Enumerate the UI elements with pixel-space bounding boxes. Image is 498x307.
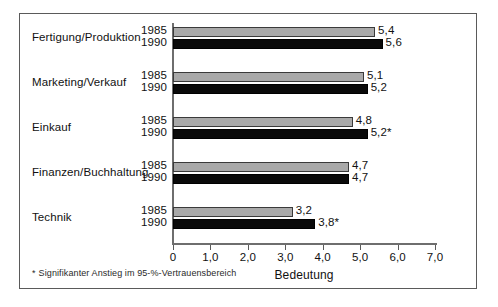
chart-frame: Bedeutung 01,02,03,04,05,06,07,0Fertigun… xyxy=(19,13,477,289)
bar xyxy=(173,162,349,172)
bar-value-label: 5,4 xyxy=(378,24,394,36)
year-label: 1990 xyxy=(133,81,167,93)
bar xyxy=(173,39,383,49)
year-label: 1985 xyxy=(133,69,167,81)
bar xyxy=(173,72,364,82)
bar-value-label: 3,2 xyxy=(296,204,312,216)
x-axis-tick xyxy=(285,245,286,250)
x-axis-tick xyxy=(173,245,174,250)
category-label: Fertigung/Produktion xyxy=(32,31,141,43)
year-label: 1990 xyxy=(133,171,167,183)
x-axis-tick xyxy=(210,245,211,250)
bar-value-label: 5,2* xyxy=(371,126,392,138)
bar-value-label: 5,1 xyxy=(367,69,383,81)
year-label: 1985 xyxy=(133,159,167,171)
x-axis-tick xyxy=(398,245,399,250)
x-axis-tick-label: 7,0 xyxy=(420,251,450,263)
year-label: 1985 xyxy=(133,204,167,216)
x-axis-tick xyxy=(248,245,249,250)
category-label: Technik xyxy=(32,211,72,223)
category-label: Marketing/Verkauf xyxy=(32,76,126,88)
bar xyxy=(173,117,353,127)
year-label: 1990 xyxy=(133,36,167,48)
x-axis-tick-label: 2,0 xyxy=(233,251,263,263)
bar-value-label: 3,8* xyxy=(318,216,339,228)
year-label: 1990 xyxy=(133,126,167,138)
bar-value-label: 5,2 xyxy=(371,81,387,93)
x-axis-tick xyxy=(323,245,324,250)
x-axis-tick xyxy=(435,245,436,250)
plot-area: Bedeutung 01,02,03,04,05,06,07,0Fertigun… xyxy=(20,14,478,290)
year-label: 1990 xyxy=(133,216,167,228)
bar xyxy=(173,129,368,139)
footnote-marker: * xyxy=(32,268,36,278)
x-axis-tick-label: 5,0 xyxy=(345,251,375,263)
x-axis-tick-label: 6,0 xyxy=(383,251,413,263)
footnote: *Signifikanter Anstieg im 95-%-Vertrauen… xyxy=(32,268,236,278)
bar xyxy=(173,27,375,37)
bar xyxy=(173,207,293,217)
category-label: Finanzen/Buchhaltung xyxy=(32,166,148,178)
x-axis-tick-label: 4,0 xyxy=(308,251,338,263)
bar xyxy=(173,84,368,94)
bar-value-label: 4,7 xyxy=(352,171,368,183)
footnote-text: Signifikanter Anstieg im 95-%-Vertrauens… xyxy=(39,268,237,278)
year-label: 1985 xyxy=(133,24,167,36)
x-axis-tick-label: 1,0 xyxy=(195,251,225,263)
x-axis-title: Bedeutung xyxy=(244,268,364,282)
bar-value-label: 4,7 xyxy=(352,159,368,171)
category-label: Einkauf xyxy=(32,121,71,133)
year-label: 1985 xyxy=(133,114,167,126)
bar-value-label: 5,6 xyxy=(386,36,402,48)
bar-value-label: 4,8 xyxy=(356,114,372,126)
x-axis-tick xyxy=(360,245,361,250)
x-axis-tick-label: 3,0 xyxy=(270,251,300,263)
bar xyxy=(173,219,315,229)
bar xyxy=(173,174,349,184)
x-axis-tick-label: 0 xyxy=(158,251,188,263)
